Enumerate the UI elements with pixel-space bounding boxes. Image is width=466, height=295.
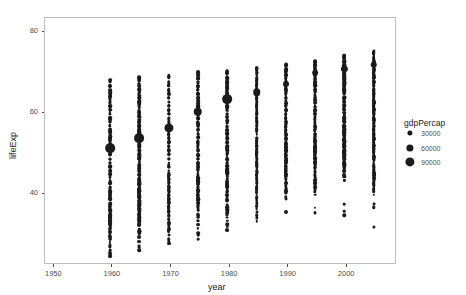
data-point	[255, 155, 258, 158]
data-point	[196, 76, 200, 80]
data-point-large	[253, 89, 261, 97]
data-point	[167, 206, 171, 210]
x-tick-label: 1950	[38, 270, 68, 278]
data-point	[255, 82, 259, 86]
data-point	[284, 174, 288, 178]
data-point	[255, 140, 259, 144]
data-point	[138, 113, 141, 116]
data-point	[225, 140, 229, 144]
data-point	[167, 104, 170, 107]
data-point	[167, 234, 170, 237]
data-point-large	[194, 107, 203, 116]
data-point	[284, 198, 287, 201]
data-point	[314, 90, 317, 93]
data-point	[137, 189, 141, 193]
data-point	[343, 203, 346, 206]
data-point	[255, 213, 259, 217]
data-point	[342, 161, 346, 165]
data-point	[196, 82, 199, 85]
y-tick-mark	[42, 31, 45, 32]
x-tick-mark	[53, 264, 54, 267]
data-point	[138, 104, 141, 107]
data-point	[372, 189, 376, 193]
data-point	[138, 145, 141, 148]
data-point	[255, 185, 259, 189]
data-point	[138, 115, 141, 118]
legend-key-label: 60000	[421, 144, 440, 151]
data-point	[167, 222, 170, 225]
data-point	[108, 104, 112, 108]
data-point	[137, 223, 141, 227]
data-point	[284, 210, 288, 214]
legend-key-dot	[407, 130, 412, 135]
data-point	[372, 76, 376, 80]
data-point	[196, 223, 200, 227]
data-point	[109, 255, 112, 258]
data-point	[138, 184, 141, 187]
data-point	[284, 189, 288, 193]
scatter-plot-figure: 406080 195019601970198019902000 lifeExp …	[0, 0, 466, 295]
data-point	[196, 232, 200, 236]
data-point	[137, 240, 141, 244]
x-tick-mark	[229, 264, 230, 267]
data-point	[314, 138, 317, 141]
data-point	[167, 137, 170, 140]
data-point	[284, 157, 288, 161]
x-tick-label: 1980	[214, 270, 244, 278]
data-point	[343, 210, 346, 213]
data-point	[108, 216, 112, 220]
legend-title: gdpPercap	[404, 119, 445, 128]
data-point	[343, 152, 346, 155]
data-point	[313, 84, 317, 88]
data-point	[197, 238, 200, 241]
data-point	[196, 70, 200, 74]
data-point	[108, 235, 112, 239]
data-point	[108, 165, 112, 169]
data-point	[226, 179, 229, 182]
data-point	[197, 214, 200, 217]
data-point	[343, 100, 347, 104]
data-point	[138, 75, 142, 79]
data-point-large	[312, 70, 318, 76]
data-point	[167, 88, 171, 92]
data-point	[225, 76, 229, 80]
data-point	[167, 217, 171, 221]
y-tick-label: 80	[20, 27, 38, 35]
data-point	[167, 157, 170, 160]
data-point	[108, 245, 111, 248]
data-point	[109, 206, 112, 209]
x-tick-label: 1990	[273, 270, 303, 278]
y-tick-label: 40	[20, 189, 38, 197]
data-point	[137, 88, 141, 92]
data-point	[343, 60, 346, 63]
data-point	[167, 195, 171, 199]
x-tick-label: 1970	[156, 270, 186, 278]
data-point	[108, 120, 111, 123]
data-point	[167, 149, 170, 152]
y-tick-mark	[42, 193, 45, 194]
data-point	[314, 193, 317, 196]
data-point	[343, 179, 345, 181]
data-point	[167, 200, 171, 204]
data-point	[109, 80, 112, 83]
data-point	[108, 191, 112, 195]
data-point	[109, 195, 112, 198]
data-point	[372, 67, 376, 71]
y-tick-mark	[42, 112, 45, 113]
data-point	[137, 128, 141, 132]
data-point	[167, 229, 171, 233]
data-point	[109, 84, 112, 87]
data-point	[167, 175, 170, 178]
data-point	[284, 168, 287, 171]
data-point	[226, 151, 229, 154]
data-point	[343, 130, 346, 133]
data-point	[255, 76, 258, 79]
data-point	[226, 88, 229, 91]
data-point	[255, 198, 258, 201]
data-point	[372, 225, 375, 228]
data-point	[167, 145, 170, 148]
data-point	[343, 109, 346, 112]
data-point	[196, 122, 200, 126]
data-point	[196, 198, 200, 202]
data-point	[138, 217, 142, 221]
